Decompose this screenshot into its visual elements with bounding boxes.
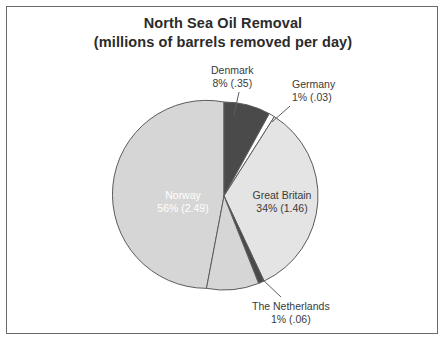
slice-label-norway-value: 56% (2.49) bbox=[141, 202, 225, 215]
slice-label-great-britain-name: Great Britain bbox=[236, 189, 328, 202]
slice-label-denmark-name: Denmark bbox=[211, 64, 254, 77]
leader-line-netherlands bbox=[262, 279, 281, 297]
slice-label-netherlands-name: The Netherlands bbox=[252, 300, 330, 313]
slice-label-denmark: Denmark 8% (.35) bbox=[211, 64, 254, 90]
slice-label-great-britain-value: 34% (1.46) bbox=[236, 202, 328, 215]
slice-label-great-britain: Great Britain 34% (1.46) bbox=[236, 189, 328, 215]
slice-label-norway-name: Norway bbox=[141, 189, 225, 202]
slice-label-germany-name: Germany bbox=[292, 78, 335, 91]
slice-label-germany: Germany 1% (.03) bbox=[292, 78, 335, 104]
slice-label-norway: Norway 56% (2.49) bbox=[141, 189, 225, 215]
pie-chart-svg bbox=[0, 0, 446, 342]
slice-label-germany-value: 1% (.03) bbox=[292, 91, 335, 104]
slice-label-netherlands: The Netherlands 1% (.06) bbox=[252, 300, 330, 326]
slice-label-netherlands-value: 1% (.06) bbox=[252, 313, 330, 326]
chart-page: North Sea Oil Removal (millions of barre… bbox=[0, 0, 446, 342]
slice-label-denmark-value: 8% (.35) bbox=[211, 77, 254, 90]
leader-line-germany bbox=[272, 106, 290, 122]
